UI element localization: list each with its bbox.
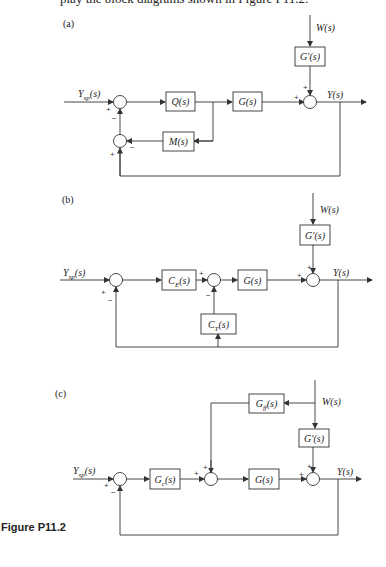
summing-junction-3 <box>307 274 320 287</box>
panel-a-label: (a) <box>63 18 74 30</box>
panel-b-input-label: Ysp(s) <box>63 267 86 281</box>
disturbance-label: W(s) <box>322 396 342 408</box>
sign: + <box>303 83 308 92</box>
sign: + <box>199 269 204 278</box>
block-diagram-figure: (a) Ysp(s) + − Q(s) G(s) + W(s) G′(s) + … <box>0 0 386 567</box>
sign: + <box>299 470 304 479</box>
sign: + <box>110 150 115 159</box>
output-label: Y(s) <box>333 267 350 279</box>
sign: − <box>112 114 117 123</box>
summing-junction-1 <box>114 96 127 109</box>
svg-text:G′(s): G′(s) <box>304 433 325 445</box>
summing-junction-3 <box>307 473 320 486</box>
sign: − <box>206 291 211 300</box>
panel-c: (c) Ysp(s) + − Gc(s) + + G(s) + W(s) Gff… <box>55 380 361 535</box>
svg-text:G′(s): G′(s) <box>300 51 321 63</box>
svg-text:M(s): M(s) <box>168 136 189 148</box>
summing-junction-1 <box>110 274 123 287</box>
panel-b: (b) Ysp(s) + − CE(s) + − G(s) + W(s) G′(… <box>60 193 372 347</box>
sign: + <box>104 481 109 490</box>
figure-caption: Figure P11.2 <box>1 521 66 533</box>
sign: + <box>203 463 208 472</box>
svg-text:G(s): G(s) <box>239 96 257 108</box>
disturbance-label: W(s) <box>316 22 336 34</box>
summing-junction-1 <box>114 473 127 486</box>
sign: + <box>194 469 199 478</box>
sign: + <box>294 93 299 102</box>
sign: − <box>111 488 116 497</box>
svg-text:G′(s): G′(s) <box>305 230 326 242</box>
svg-text:G(s): G(s) <box>244 275 262 287</box>
sign: + <box>307 462 312 471</box>
output-label: Y(s) <box>327 89 344 101</box>
disturbance-label: W(s) <box>320 204 340 216</box>
panel-b-label: (b) <box>62 194 74 206</box>
svg-text:Q(s): Q(s) <box>172 96 190 108</box>
sign: − <box>130 143 135 152</box>
summing-junction-2 <box>114 135 127 148</box>
panel-a: (a) Ysp(s) + − Q(s) G(s) + W(s) G′(s) + … <box>63 15 366 176</box>
panel-c-label: (c) <box>55 388 66 400</box>
panel-c-input-label: Ysp(s) <box>73 465 96 479</box>
sign: + <box>297 271 302 280</box>
sign: + <box>101 288 106 297</box>
svg-text:G(s): G(s) <box>255 474 273 486</box>
summing-junction-2 <box>208 274 221 287</box>
summing-junction-3 <box>304 96 317 109</box>
sign: + <box>106 105 111 114</box>
sign: − <box>108 296 113 305</box>
output-label: Y(s) <box>337 466 354 478</box>
summing-junction-2 <box>205 473 218 486</box>
sign: + <box>307 263 312 272</box>
panel-a-input-label: Ysp(s) <box>78 88 101 102</box>
